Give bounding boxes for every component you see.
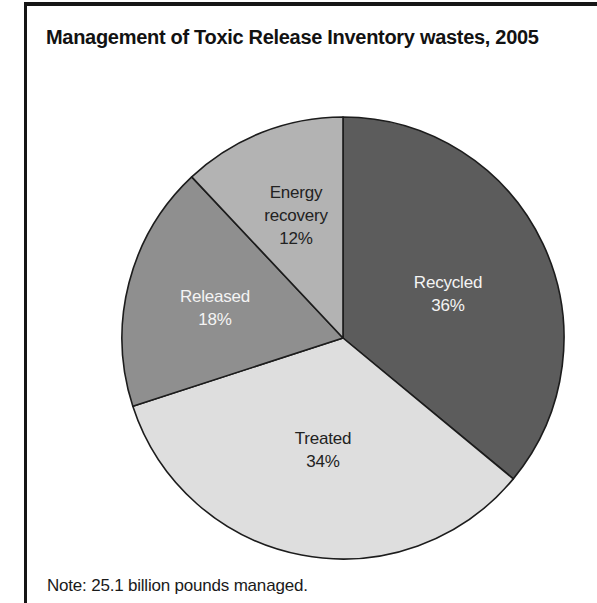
- slice-name: Recycled: [414, 273, 482, 292]
- slice-name: Released: [180, 287, 250, 306]
- slice-label-treated: Treated 34%: [263, 427, 383, 473]
- chart-note: Note: 25.1 billion pounds managed.: [47, 576, 308, 596]
- slice-pct: 12%: [251, 227, 341, 250]
- slice-name: Treated: [295, 429, 352, 448]
- slice-pct: 18%: [155, 308, 275, 331]
- slice-label-recycled: Recycled 36%: [388, 271, 508, 317]
- slice-label-released: Released 18%: [155, 285, 275, 331]
- slice-pct: 34%: [263, 450, 383, 473]
- figure: Management of Toxic Release Inventory wa…: [0, 0, 597, 603]
- slice-label-energy-recovery: Energy recovery 12%: [251, 181, 341, 250]
- slice-pct: 36%: [388, 294, 508, 317]
- slice-name: Energy recovery: [264, 183, 328, 225]
